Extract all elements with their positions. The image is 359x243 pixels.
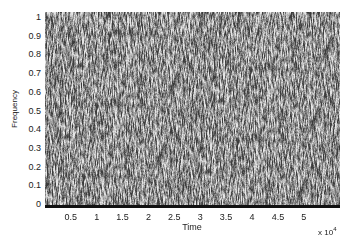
y-tick-label: 0.7 [28,68,41,78]
low-frequency-band [45,205,340,208]
y-tick-label: 0.2 [28,162,41,172]
y-tick-label: 0 [36,199,41,209]
y-tick-label: 1 [36,12,41,22]
x-tick-label: 1.5 [116,212,129,222]
x-tick-label: 2.5 [168,212,181,222]
x-tick-label: 4.5 [272,212,285,222]
x-tick-label: 5 [301,212,306,222]
x-axis-multiplier: x 104 [318,226,336,237]
x-axis-label: Time [182,222,202,232]
y-tick-label: 0.3 [28,143,41,153]
y-axis-label: Frequency [10,84,19,134]
y-tick-label: 0.6 [28,87,41,97]
y-tick-label: 0.8 [28,49,41,59]
x-tick-label: 4 [250,212,255,222]
x-tick-label: 3 [198,212,203,222]
spectrogram-figure: 00.10.20.30.40.50.60.70.80.91 0.511.522.… [0,0,359,243]
spectrogram-image [45,12,340,207]
y-tick-label: 0.1 [28,180,41,190]
x-tick-label: 2 [146,212,151,222]
y-tick-label: 0.9 [28,31,41,41]
y-tick-label: 0.5 [28,106,41,116]
x-tick-label: 1 [94,212,99,222]
x-tick-label: 0.5 [65,212,78,222]
y-tick-label: 0.4 [28,124,41,134]
x-tick-label: 3.5 [220,212,233,222]
spectrogram-plot-area [45,12,340,207]
